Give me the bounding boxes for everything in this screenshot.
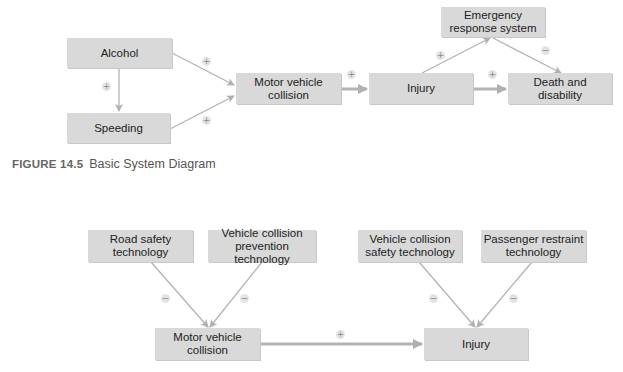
- figure-number: FIGURE 14.5: [12, 158, 83, 170]
- node-road-safety-technology: Road safety technology: [88, 230, 193, 262]
- edge-speeding-mvc: [170, 96, 234, 129]
- figure-title: Basic System Diagram: [89, 157, 215, 171]
- sign-alcohol-mvc: +: [202, 57, 211, 66]
- node-passenger-restraint-technology: Passenger restraint technology: [481, 230, 586, 262]
- sign-mvc-injury: +: [347, 70, 356, 79]
- node-emergency-response-system: Emergency response system: [441, 7, 545, 37]
- sign-road-mvc: −: [161, 294, 170, 303]
- sign-alcohol-speeding: +: [102, 82, 111, 91]
- sign-mvc-injury-2: +: [336, 330, 345, 339]
- edge-vcpt-mvc: [210, 262, 262, 327]
- sign-prt-injury: −: [509, 294, 518, 303]
- node-vehicle-collision-prevention-technology: Vehicle collision prevention technology: [208, 230, 316, 262]
- node-alcohol: Alcohol: [67, 38, 172, 68]
- edge-injury-ers: [422, 38, 490, 73]
- node-vehicle-collision-safety-technology: Vehicle collision safety technology: [358, 230, 462, 262]
- node-death-and-disability: Death and disability: [508, 73, 612, 104]
- node-motor-vehicle-collision-2: Motor vehicle collision: [155, 328, 260, 360]
- node-injury-2: Injury: [424, 328, 528, 360]
- sign-ers-death: −: [541, 46, 550, 55]
- figure-caption: FIGURE 14.5Basic System Diagram: [12, 157, 216, 171]
- sign-vcpt-mvc: −: [240, 294, 249, 303]
- sign-vcst-injury: −: [429, 294, 438, 303]
- edge-road-mvc: [151, 262, 208, 327]
- node-injury: Injury: [369, 73, 473, 104]
- node-motor-vehicle-collision: Motor vehicle collision: [236, 73, 341, 104]
- node-speeding: Speeding: [67, 113, 170, 143]
- sign-speeding-mvc: +: [202, 116, 211, 125]
- sign-injury-death: +: [488, 70, 497, 79]
- edge-vcst-injury: [419, 262, 475, 327]
- sign-injury-ers: +: [436, 51, 445, 60]
- edge-ers-death: [493, 38, 561, 73]
- edge-prt-injury: [477, 262, 532, 327]
